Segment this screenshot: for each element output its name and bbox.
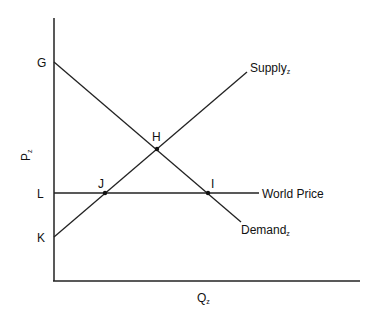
x-axis-label: Qz (197, 291, 210, 305)
point-i-dot (206, 191, 210, 195)
supply-label: Supplyz (250, 61, 291, 75)
label-k: K (37, 231, 45, 245)
demand-curve (54, 62, 241, 222)
supply-curve (54, 72, 247, 237)
supply-demand-diagram: G H L J I K Supplyz World Price Demandz … (0, 0, 379, 315)
label-i: I (211, 177, 214, 191)
label-g: G (37, 56, 46, 70)
label-l: L (37, 187, 44, 201)
label-j: J (98, 177, 104, 191)
point-h-dot (155, 147, 159, 151)
point-j-dot (103, 191, 107, 195)
world-price-label: World Price (262, 187, 324, 201)
demand-label: Demandz (241, 223, 290, 237)
label-h: H (152, 130, 161, 144)
y-axis-label: Pz (19, 149, 33, 161)
